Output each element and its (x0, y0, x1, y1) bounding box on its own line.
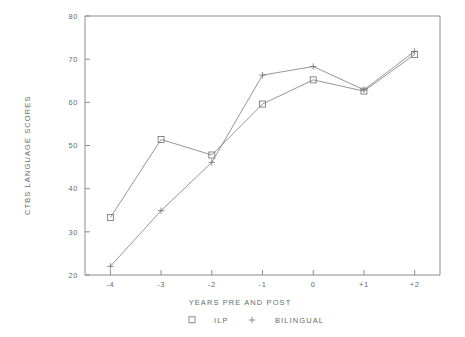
x-axis-ticks: -4-3-2-10+1+2 (106, 270, 419, 289)
legend-label-ilp: ILP (214, 316, 229, 325)
x-tick-label-0: 0 (311, 280, 316, 289)
series-layer (107, 48, 418, 269)
y-tick-label-50: 50 (68, 141, 78, 150)
y-tick-label-30: 30 (68, 228, 78, 237)
x-tick-label-+1: +1 (359, 280, 369, 289)
y-tick-label-60: 60 (68, 98, 78, 107)
y-axis-ticks: 20304050607080 (68, 12, 90, 280)
x-tick-label--4: -4 (106, 280, 114, 289)
line-chart: 20304050607080 -4-3-2-10+1+2 CTBS LANGUA… (0, 0, 465, 337)
x-tick-label-+2: +2 (410, 280, 420, 289)
y-tick-label-40: 40 (68, 184, 78, 193)
series-line-bilingual (110, 51, 414, 266)
x-tick-label--2: -2 (208, 280, 216, 289)
square-marker-icon (189, 317, 195, 323)
x-axis-title: YEARS PRE AND POST (189, 298, 292, 307)
y-axis-title: CTBS LANGUAGE SCORES (23, 95, 32, 215)
series-bilingual (107, 48, 418, 269)
chart-container: 20304050607080 -4-3-2-10+1+2 CTBS LANGUA… (0, 0, 465, 337)
legend-label-bilingual: BILINGUAL (275, 316, 324, 325)
y-tick-label-80: 80 (68, 12, 78, 21)
y-tick-label-70: 70 (68, 55, 78, 64)
y-tick-label-20: 20 (68, 271, 78, 280)
chart-legend: ILPBILINGUAL (189, 316, 324, 325)
series-line-ilp (110, 54, 414, 217)
x-tick-label--1: -1 (259, 280, 267, 289)
x-tick-label--3: -3 (157, 280, 165, 289)
